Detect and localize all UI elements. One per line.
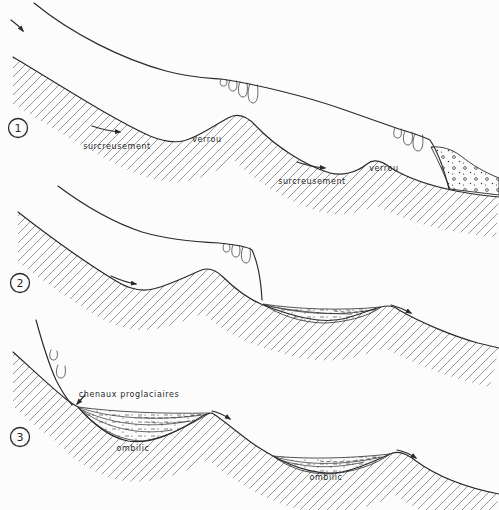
crevasse-marks <box>223 244 250 263</box>
crevasse-mark <box>223 244 230 252</box>
crevasse-mark <box>241 247 250 263</box>
label-ombilic-left: ombilic <box>116 444 149 453</box>
label-surcreusement-right: surcreusement <box>278 177 346 186</box>
label-ombilic-right: ombilic <box>309 473 342 482</box>
label-verrou-right: verrou <box>369 164 398 173</box>
stage-number: 2 <box>17 277 24 290</box>
label-chenaux-proglaciaires: chenaux proglaciaires <box>79 390 180 399</box>
crevasse-mark <box>232 245 240 257</box>
crevasse-mark <box>238 82 247 97</box>
bedrock-hatching <box>13 57 499 197</box>
crevasse-mark <box>50 350 58 360</box>
stage-1-panel: 1 surcreusement verrou surcreusement ver… <box>9 3 499 197</box>
crevasse-mark <box>248 84 258 103</box>
stage-number: 1 <box>15 122 22 135</box>
stage-number-badge: 3 <box>11 428 30 447</box>
stage-number-badge: 1 <box>9 119 28 138</box>
ice-flow-arrow <box>11 20 23 31</box>
bedrock-hatching <box>18 212 499 348</box>
label-verrou-left: verrou <box>192 135 221 144</box>
crevasse-mark <box>56 365 65 378</box>
stage-number: 3 <box>17 431 24 444</box>
glacial-valley-evolution-diagram: 1 surcreusement verrou surcreusement ver… <box>0 0 499 510</box>
stage-number-badge: 2 <box>11 274 30 293</box>
figure: 1 surcreusement verrou surcreusement ver… <box>0 0 499 510</box>
label-surcreusement-left: surcreusement <box>83 142 151 151</box>
bedrock-hatching <box>13 352 499 494</box>
crevasse-marks <box>50 350 66 378</box>
